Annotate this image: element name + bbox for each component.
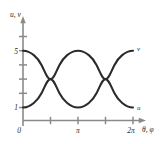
plot-canvas: u, v θ, φ 0 5 1 π 2π v u	[0, 0, 162, 144]
curve-label-v: v	[137, 45, 141, 53]
y-axis-label: u, v	[10, 10, 22, 19]
figure-container: u, v θ, φ 0 5 1 π 2π v u	[0, 0, 162, 144]
curve-v	[23, 79, 133, 107]
x-tick-label-pi: π	[76, 126, 80, 135]
x-tick-label-two-pi: 2π	[127, 126, 135, 135]
x-axis-arrowhead	[139, 118, 146, 123]
origin-label: 0	[17, 126, 21, 135]
curve-u	[23, 51, 133, 79]
y-tick-label-5: 5	[14, 47, 18, 56]
axes-group	[20, 16, 146, 126]
curves-group	[23, 51, 133, 108]
y-tick-label-1: 1	[14, 103, 18, 112]
x-axis-label: θ, φ	[142, 125, 154, 134]
y-axis-arrowhead	[20, 16, 25, 23]
curve-label-u: u	[137, 104, 141, 112]
